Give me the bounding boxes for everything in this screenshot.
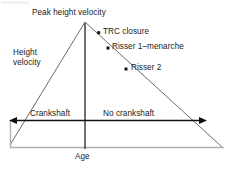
marker-risser1-menarche xyxy=(107,47,110,50)
no-crankshaft-region-label: No crankshaft xyxy=(103,109,154,119)
curve-descending-limb xyxy=(85,22,222,147)
curve-ascending-limb xyxy=(10,22,85,145)
height-velocity-axis-label: Heightvelocity xyxy=(13,48,41,67)
marker-risser2 xyxy=(125,68,128,71)
height-velocity-line2: velocity xyxy=(13,58,41,67)
risser1-menarche-label: Risser 1–menarche xyxy=(112,42,184,52)
risser2-label: Risser 2 xyxy=(131,63,161,73)
marker-trc-closure xyxy=(97,31,100,34)
age-axis-label: Age xyxy=(75,152,90,162)
diagram-svg xyxy=(0,0,228,170)
trc-closure-label: TRC closure xyxy=(103,27,149,37)
crankshaft-region-label: Crankshaft xyxy=(30,109,70,119)
peak-height-velocity-label: Peak height velocity xyxy=(32,8,106,18)
figure-canvas: Peak height velocity TRC closure Risser … xyxy=(0,0,228,170)
height-velocity-line1: Height xyxy=(13,48,37,57)
span-arrow-head-right xyxy=(199,117,207,124)
